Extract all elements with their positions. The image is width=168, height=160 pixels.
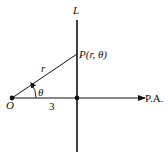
line-l-label: L (72, 4, 79, 16)
intersection-point (75, 96, 80, 101)
distance-label: 3 (49, 100, 55, 112)
radius-line (12, 54, 77, 98)
origin-label: O (6, 99, 14, 111)
angle-theta-arc (32, 85, 36, 99)
point-p-label: P(r, θ) (78, 48, 107, 61)
polar-coordinates-diagram: L P(r, θ) O r θ 3 P.A. (0, 0, 168, 160)
radius-label: r (41, 62, 46, 74)
polar-axis-label: P.A. (145, 92, 164, 104)
angle-theta-label: θ (38, 86, 44, 98)
